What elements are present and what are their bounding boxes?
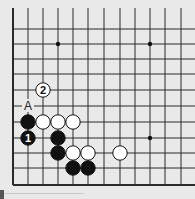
white-stone — [51, 115, 65, 129]
star-point-icon — [148, 42, 152, 46]
bottom-divider — [4, 193, 84, 194]
star-point-icon — [148, 136, 152, 140]
stone-move-number: 1 — [25, 132, 31, 144]
go-board-diagram: A 12 — [0, 0, 195, 199]
white-stone — [113, 146, 127, 160]
marker-label: A — [24, 99, 32, 113]
board-markers: A — [22, 99, 34, 113]
white-stone — [81, 146, 95, 160]
black-stone — [51, 131, 65, 145]
stone-move-number: 2 — [40, 84, 46, 96]
black-stone — [66, 161, 80, 175]
white-stone — [36, 115, 50, 129]
black-stone — [51, 146, 65, 160]
black-stone — [21, 115, 35, 129]
star-point-icon — [56, 42, 60, 46]
page-corner-mark — [0, 190, 4, 199]
black-stone — [81, 161, 95, 175]
white-stone — [66, 115, 80, 129]
stones: 12 — [21, 83, 127, 175]
white-stone — [66, 146, 80, 160]
